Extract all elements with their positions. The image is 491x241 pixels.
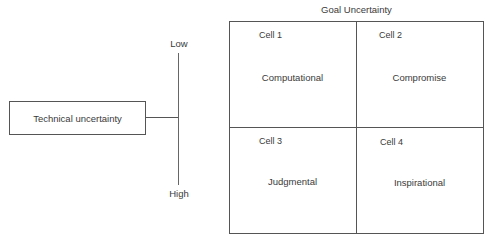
cell-2-name: Compromise [356,72,483,83]
cell-4-number: Cell 4 [380,137,403,147]
technical-uncertainty-label: Technical uncertainty [33,113,122,124]
cell-1-number: Cell 1 [259,30,282,40]
matrix-horizontal-divider [229,127,483,128]
cell-1-name: Computational [229,72,356,83]
technical-uncertainty-axis [178,53,179,185]
axis-low-label: Low [162,38,196,49]
technical-connector-line [145,117,178,118]
technical-uncertainty-box: Technical uncertainty [9,101,146,135]
goal-uncertainty-title: Goal Uncertainty [229,4,484,15]
cell-4-name: Inspirational [356,177,483,188]
cell-2-number: Cell 2 [379,30,402,40]
cell-3-number: Cell 3 [259,136,282,146]
cell-3-name: Judgmental [229,176,356,187]
axis-high-label: High [162,188,196,199]
